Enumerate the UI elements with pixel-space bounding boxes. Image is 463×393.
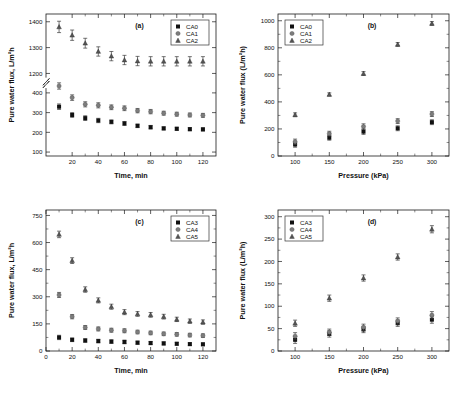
- y-tick-label: 1300: [29, 44, 43, 51]
- data-point-CA3: [175, 342, 179, 346]
- y-tick-label: 0: [271, 347, 275, 354]
- x-tick-label: 250: [393, 353, 404, 360]
- x-tick-label: 200: [358, 353, 369, 360]
- y-tick-label: 0: [271, 152, 275, 159]
- data-point-CA5: [174, 317, 179, 321]
- data-point-CA2: [122, 58, 127, 62]
- data-point-CA0: [362, 130, 366, 134]
- y-tick-label: 200: [264, 125, 275, 132]
- legend: CA0CA1CA2: [285, 20, 323, 45]
- data-point-CA3: [149, 341, 153, 345]
- legend-label-CA2: CA2: [186, 37, 199, 44]
- data-point-CA5: [361, 276, 366, 280]
- legend-marker-CA3: [290, 221, 294, 225]
- y-tick-label: 150: [264, 280, 275, 287]
- data-point-CA0: [122, 121, 126, 125]
- y-axis-title: Pure water flux, L/m²h: [7, 243, 16, 318]
- x-tick-label: 40: [95, 158, 102, 165]
- data-point-CA4: [135, 330, 139, 334]
- data-point-CA1: [149, 110, 153, 114]
- data-point-CA5: [395, 255, 400, 259]
- x-tick-label: 100: [172, 353, 183, 360]
- chart-panel-b: 02004006008001000100150200250300CA0CA1CA…: [232, 0, 463, 196]
- data-point-CA5: [188, 319, 193, 323]
- data-point-CA3: [109, 340, 113, 344]
- legend-marker-CA3: [176, 221, 180, 225]
- panel-label: (d): [368, 218, 377, 226]
- data-point-CA1: [70, 96, 74, 100]
- data-point-CA2: [161, 59, 166, 63]
- data-point-CA0: [162, 126, 166, 130]
- legend: CA3CA4CA5: [285, 216, 323, 241]
- data-point-CA0: [136, 124, 140, 128]
- data-point-CA1: [162, 111, 166, 115]
- data-point-CA2: [83, 41, 88, 45]
- y-tick-label: 250: [264, 235, 275, 242]
- data-point-CA4: [327, 330, 331, 334]
- data-point-CA5: [430, 227, 435, 231]
- x-tick-label: 0: [44, 353, 48, 360]
- legend-marker-CA1: [176, 31, 180, 35]
- legend-marker-CA4: [176, 227, 180, 231]
- data-point-CA4: [122, 329, 126, 333]
- data-point-CA1: [327, 132, 331, 136]
- x-tick-label: 150: [324, 158, 335, 165]
- x-tick-label: 80: [147, 158, 154, 165]
- data-point-CA4: [109, 328, 113, 332]
- data-point-CA4: [149, 331, 153, 335]
- data-point-CA5: [161, 314, 166, 318]
- legend-label-CA3: CA3: [186, 219, 199, 226]
- data-point-CA3: [96, 339, 100, 343]
- series-CA4: [57, 292, 205, 337]
- legend-label-CA0: CA0: [186, 23, 199, 30]
- x-tick-label: 100: [290, 353, 301, 360]
- data-point-CA1: [57, 84, 61, 88]
- data-point-CA1: [396, 119, 400, 123]
- data-point-CA0: [175, 127, 179, 131]
- data-point-CA5: [96, 298, 101, 302]
- y-tick-label: 400: [32, 89, 43, 96]
- data-point-CA0: [70, 113, 74, 117]
- data-point-CA3: [83, 339, 87, 343]
- x-tick-label: 60: [121, 353, 128, 360]
- panel-label: (c): [135, 218, 143, 226]
- x-tick-label: 120: [198, 353, 209, 360]
- data-point-CA5: [57, 232, 62, 236]
- data-point-CA5: [70, 258, 75, 262]
- data-point-CA4: [430, 313, 434, 317]
- legend-label-CA4: CA4: [300, 226, 313, 233]
- x-tick-label: 20: [69, 353, 76, 360]
- legend-label-CA0: CA0: [300, 23, 313, 30]
- data-point-CA1: [83, 102, 87, 106]
- x-tick-label: 40: [95, 353, 102, 360]
- data-point-CA3: [201, 342, 205, 346]
- y-tick-label: 150: [32, 320, 43, 327]
- x-tick-label: 60: [121, 158, 128, 165]
- panel-label: (a): [135, 22, 143, 30]
- series-CA3: [57, 335, 205, 346]
- data-point-CA5: [122, 310, 127, 314]
- x-tick-label: 20: [69, 158, 76, 165]
- data-point-CA4: [70, 315, 74, 319]
- x-axis-title: Pressure (kPa): [338, 171, 389, 180]
- y-tick-label: 200: [32, 129, 43, 136]
- data-point-CA0: [188, 127, 192, 131]
- chart-panel-a: 10020030040012001300140020406080100120CA…: [0, 0, 232, 196]
- data-point-CA1: [361, 124, 365, 128]
- data-point-CA1: [122, 106, 126, 110]
- y-tick-label: 50: [268, 325, 275, 332]
- y-tick-label: 100: [32, 148, 43, 155]
- legend-label-CA4: CA4: [186, 226, 199, 233]
- chart-panel-d: 050100150200250300100150200250300CA3CA4C…: [232, 196, 463, 393]
- data-point-CA0: [201, 127, 205, 131]
- y-tick-label: 750: [32, 212, 43, 219]
- x-tick-label: 300: [427, 353, 438, 360]
- series-CA1: [293, 112, 434, 145]
- y-tick-label: 600: [32, 239, 43, 246]
- y-axis-title: Pure water flux (L/m²h): [238, 45, 247, 123]
- x-axis-title: Time, min: [114, 366, 147, 375]
- x-tick-label: 100: [290, 158, 301, 165]
- y-tick-label: 300: [264, 213, 275, 220]
- data-point-CA0: [96, 119, 100, 123]
- data-point-CA5: [201, 320, 206, 324]
